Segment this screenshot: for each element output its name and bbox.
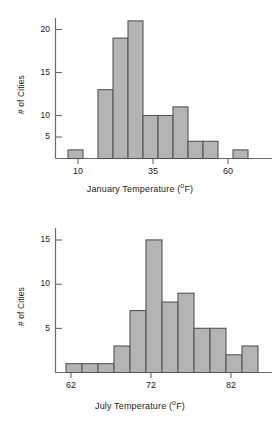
bar-bin-10 xyxy=(68,150,83,159)
january-ytick-5: 5 xyxy=(24,131,50,141)
bar-bin-35 xyxy=(143,116,158,159)
july-xtick-82: 82 xyxy=(211,380,251,390)
january-y-axis-label: # of Cities xyxy=(16,75,26,114)
bar-bin-70 xyxy=(130,311,146,373)
bar-bin-64 xyxy=(82,364,98,373)
january-xtick-10: 10 xyxy=(58,166,98,176)
bar-bin-66 xyxy=(98,364,114,373)
bar-bin-82 xyxy=(226,355,242,373)
july-ytick-15: 15 xyxy=(24,234,50,244)
july-y-axis-label: # of Cities xyxy=(16,287,26,326)
bar-bin-45 xyxy=(173,107,188,159)
x-axis-ticks xyxy=(71,373,231,379)
bar-bin-72 xyxy=(146,240,162,373)
histogram-figure: 20 15 10 5 10 35 60 # of Cities January … xyxy=(0,0,280,428)
january-xtick-35: 35 xyxy=(133,166,173,176)
january-x-axis-label-tail: F) xyxy=(184,184,193,194)
january-bars xyxy=(68,21,248,159)
july-x-axis-label-text: July Temperature ( xyxy=(95,401,172,411)
july-plot-graphics xyxy=(0,214,280,428)
bar-bin-62 xyxy=(66,364,82,373)
bar-bin-84 xyxy=(242,346,258,373)
bar-bin-30 xyxy=(128,21,143,159)
bar-bin-76 xyxy=(178,293,194,372)
bar-bin-65 xyxy=(233,150,248,159)
july-x-axis-label-tail: F) xyxy=(176,401,185,411)
y-axis-ticks xyxy=(56,240,63,328)
july-x-axis-label: July Temperature (oF) xyxy=(0,399,280,411)
bar-bin-40 xyxy=(158,116,173,159)
bar-bin-25 xyxy=(113,38,128,158)
bar-bin-50 xyxy=(188,141,203,158)
bar-bin-68 xyxy=(114,346,130,373)
y-axis-ticks xyxy=(56,30,63,138)
x-axis-ticks xyxy=(78,159,228,165)
july-ytick-10: 10 xyxy=(24,278,50,288)
january-ytick-10: 10 xyxy=(24,110,50,120)
bar-bin-74 xyxy=(162,302,178,373)
bar-bin-78 xyxy=(194,328,210,372)
july-bars xyxy=(66,240,258,373)
january-ytick-15: 15 xyxy=(24,67,50,77)
july-ytick-5: 5 xyxy=(24,323,50,333)
july-xtick-62: 62 xyxy=(51,380,91,390)
july-xtick-72: 72 xyxy=(131,380,171,390)
chart-january: 20 15 10 5 10 35 60 # of Cities January … xyxy=(0,0,280,214)
bar-bin-80 xyxy=(210,328,226,372)
january-ytick-20: 20 xyxy=(24,24,50,34)
bar-bin-55 xyxy=(203,141,218,158)
january-xtick-60: 60 xyxy=(208,166,248,176)
january-x-axis-label-text: January Temperature ( xyxy=(87,184,181,194)
bar-bin-20 xyxy=(98,90,113,159)
chart-july: 15 10 5 62 72 82 # of Cities July Temper… xyxy=(0,214,280,428)
january-x-axis-label: January Temperature (oF) xyxy=(0,182,280,194)
